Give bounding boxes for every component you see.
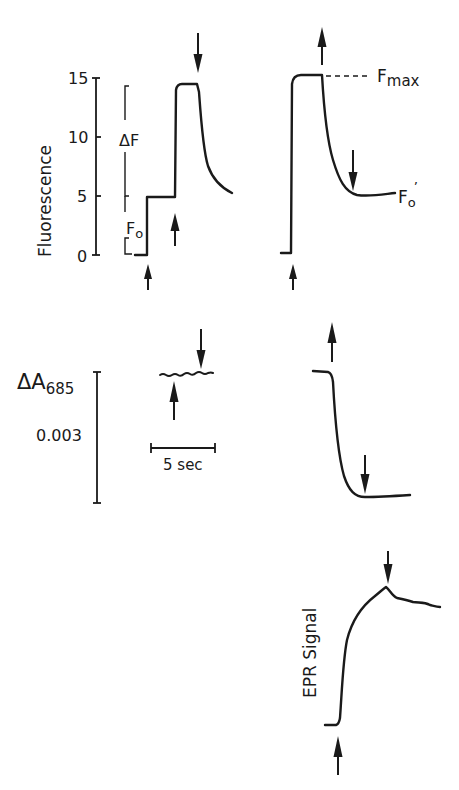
epr-trace bbox=[325, 587, 440, 725]
fmax-label: Fmax bbox=[377, 66, 420, 90]
absorbance-scale-bar bbox=[93, 372, 101, 503]
arrow-up-icon bbox=[334, 736, 343, 775]
arrow-up-icon bbox=[144, 264, 152, 290]
f0-bracket: Fo bbox=[125, 196, 143, 254]
f0-prime-label: Fo’ bbox=[398, 179, 418, 210]
fluorescence-trace-left bbox=[135, 84, 232, 255]
tick-label-10: 10 bbox=[68, 128, 88, 147]
fluorescence-axis: 15 10 5 0 bbox=[68, 69, 101, 266]
f0-label: Fo bbox=[126, 219, 143, 241]
arrow-up-icon bbox=[171, 213, 180, 246]
arrow-up-icon bbox=[318, 27, 327, 65]
arrow-down-icon bbox=[194, 33, 203, 73]
delta-f-bracket: ΔF bbox=[119, 86, 139, 196]
absorbance-ylabel: ΔA685 bbox=[17, 370, 74, 398]
epr-panel: EPR Signal bbox=[300, 551, 440, 775]
tick-label-15: 15 bbox=[68, 69, 88, 88]
tick-label-5: 5 bbox=[77, 187, 87, 206]
arrow-down-icon bbox=[197, 329, 206, 369]
absorbance-trace-left bbox=[160, 372, 213, 376]
time-scale-label: 5 sec bbox=[163, 456, 203, 474]
fluorescence-ylabel: Fluorescence bbox=[35, 145, 55, 257]
fluorescence-panel: Fluorescence 15 10 5 0 ΔF Fo bbox=[35, 27, 420, 290]
tick-label-0: 0 bbox=[77, 247, 87, 266]
arrow-down-icon bbox=[349, 150, 358, 191]
arrow-up-icon bbox=[289, 264, 297, 290]
arrow-up-icon bbox=[328, 322, 337, 362]
arrow-down-icon bbox=[384, 551, 393, 584]
delta-f-label: ΔF bbox=[119, 131, 139, 150]
arrow-up-icon bbox=[170, 381, 179, 420]
arrow-down-icon bbox=[361, 455, 370, 494]
figure-canvas: Fluorescence 15 10 5 0 ΔF Fo bbox=[0, 0, 459, 790]
absorbance-scale-value: 0.003 bbox=[36, 426, 82, 445]
absorbance-panel: ΔA685 0.003 5 sec bbox=[17, 322, 410, 503]
fluorescence-trace-right bbox=[281, 75, 395, 253]
time-scale-bar bbox=[151, 443, 215, 453]
epr-ylabel: EPR Signal bbox=[300, 608, 320, 698]
